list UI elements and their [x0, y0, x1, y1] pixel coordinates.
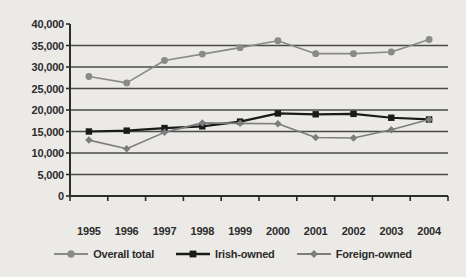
- data-point-circle: [274, 37, 281, 44]
- x-axis-tick-label: 2000: [266, 225, 290, 237]
- data-point-circle: [350, 50, 357, 57]
- data-point-square: [275, 110, 281, 116]
- data-point-diamond: [388, 126, 396, 134]
- data-point-diamond: [274, 120, 282, 128]
- data-point-square: [388, 115, 394, 121]
- data-point-diamond: [310, 250, 318, 258]
- legend-item-foreign-owned[interactable]: Foreign-owned: [297, 248, 412, 260]
- data-point-diamond: [123, 145, 131, 153]
- gridlines: [70, 46, 448, 175]
- data-point-square: [350, 111, 356, 117]
- data-point-circle: [161, 57, 168, 64]
- data-point-circle: [312, 50, 319, 57]
- x-axis-tick-label: 1997: [153, 225, 177, 237]
- data-point-diamond: [312, 134, 320, 142]
- series-foreign-owned: [85, 116, 433, 153]
- legend-swatch-circle: [54, 248, 88, 260]
- data-point-circle: [67, 250, 74, 257]
- data-point-diamond: [85, 136, 93, 144]
- series-line: [89, 119, 429, 148]
- x-axis-tick-label: 2003: [379, 225, 403, 237]
- x-axis-tick-label: 2004: [417, 225, 441, 237]
- x-axis-tick-label: 1995: [77, 225, 101, 237]
- x-axis-tick-label: 2001: [304, 225, 328, 237]
- line-chart: 05,00010,00015,00020,00025,00030,00035,0…: [0, 0, 466, 277]
- data-point-square: [313, 111, 319, 117]
- data-point-square: [190, 251, 197, 258]
- series-overall-total: [85, 36, 432, 86]
- data-series-layer: [85, 36, 433, 152]
- legend-swatch-diamond: [297, 248, 331, 260]
- legend-item-irish-owned[interactable]: Irish-owned: [176, 248, 275, 260]
- x-axis-tick-label: 1999: [228, 225, 252, 237]
- legend-label: Foreign-owned: [336, 248, 412, 260]
- x-axis-tick-labels: 1995199619971998199920002001200220032004: [0, 225, 466, 241]
- data-point-circle: [85, 73, 92, 80]
- series-line: [89, 113, 429, 131]
- legend-swatch-square: [176, 248, 210, 260]
- x-axis-tick-label: 1996: [115, 225, 139, 237]
- legend-item-overall-total[interactable]: Overall total: [54, 248, 154, 260]
- x-axis-tick-label: 2002: [342, 225, 366, 237]
- legend-label: Overall total: [93, 248, 154, 260]
- chart-legend: Overall totalIrish-ownedForeign-owned: [0, 243, 466, 265]
- data-point-circle: [426, 36, 433, 43]
- data-point-square: [124, 127, 130, 133]
- data-point-circle: [199, 51, 206, 58]
- data-point-square: [86, 128, 92, 134]
- data-point-circle: [237, 44, 244, 51]
- data-point-diamond: [350, 134, 358, 142]
- data-point-circle: [123, 79, 130, 86]
- x-axis-tick-label: 1998: [190, 225, 214, 237]
- data-point-circle: [388, 49, 395, 56]
- legend-label: Irish-owned: [215, 248, 275, 260]
